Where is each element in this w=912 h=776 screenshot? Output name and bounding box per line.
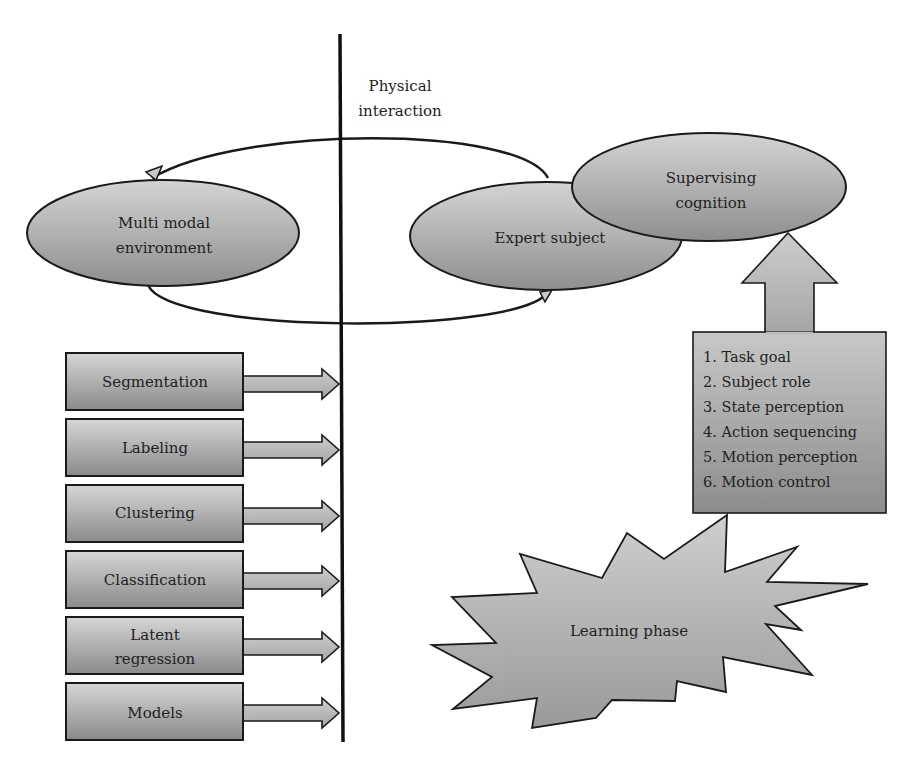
supervising-cognition-label-2: cognition bbox=[675, 194, 746, 212]
process-label: Classification bbox=[104, 571, 207, 589]
cognition-item: 6. Motion control bbox=[703, 474, 831, 490]
supervising-cognition-node: Supervising cognition bbox=[572, 133, 846, 241]
physical-interaction-label: Physical bbox=[369, 77, 432, 95]
cycle-arc-top bbox=[152, 138, 548, 178]
process-label: Latent bbox=[130, 626, 180, 644]
process-box-models: Models bbox=[66, 683, 339, 740]
process-box-labeling: Labeling bbox=[66, 419, 339, 476]
process-label-2: regression bbox=[115, 650, 196, 668]
process-label: Models bbox=[127, 704, 182, 722]
cognition-item: 2. Subject role bbox=[703, 374, 811, 390]
environment-label: Multi modal bbox=[118, 214, 210, 232]
cognition-item: 4. Action sequencing bbox=[703, 424, 857, 440]
expert-subject-label: Expert subject bbox=[495, 229, 606, 247]
process-box-clustering: Clustering bbox=[66, 485, 339, 542]
cognition-item: 5. Motion perception bbox=[703, 449, 857, 465]
process-label: Labeling bbox=[122, 439, 189, 457]
process-box-latent-regression: Latent regression bbox=[66, 617, 339, 674]
process-label: Clustering bbox=[115, 504, 195, 522]
cycle-arrowhead-top bbox=[146, 166, 162, 180]
process-box-segmentation: Segmentation bbox=[66, 353, 339, 410]
diagram-canvas: Physical interaction Multi modal environ… bbox=[0, 0, 912, 776]
cognition-item: 3. State perception bbox=[703, 399, 844, 415]
process-label: Segmentation bbox=[102, 373, 208, 391]
cycle-arc-bottom bbox=[148, 285, 548, 323]
physical-interaction-divider bbox=[340, 34, 343, 742]
environment-label-2: environment bbox=[116, 239, 212, 257]
learning-phase-label: Learning phase bbox=[570, 622, 688, 640]
cognition-item: 1. Task goal bbox=[703, 349, 791, 365]
process-stack: Segmentation Labeling Clustering Classif… bbox=[66, 353, 339, 740]
cognition-components-arrow: 1. Task goal 2. Subject role 3. State pe… bbox=[693, 233, 886, 513]
cycle-arrowhead-bottom bbox=[540, 290, 552, 302]
supervising-cognition-label: Supervising bbox=[666, 169, 757, 187]
multi-modal-environment-node: Multi modal environment bbox=[27, 180, 299, 286]
learning-phase-node: Learning phase bbox=[432, 515, 868, 728]
process-box-classification: Classification bbox=[66, 551, 339, 608]
physical-interaction-label-2: interaction bbox=[358, 102, 442, 120]
